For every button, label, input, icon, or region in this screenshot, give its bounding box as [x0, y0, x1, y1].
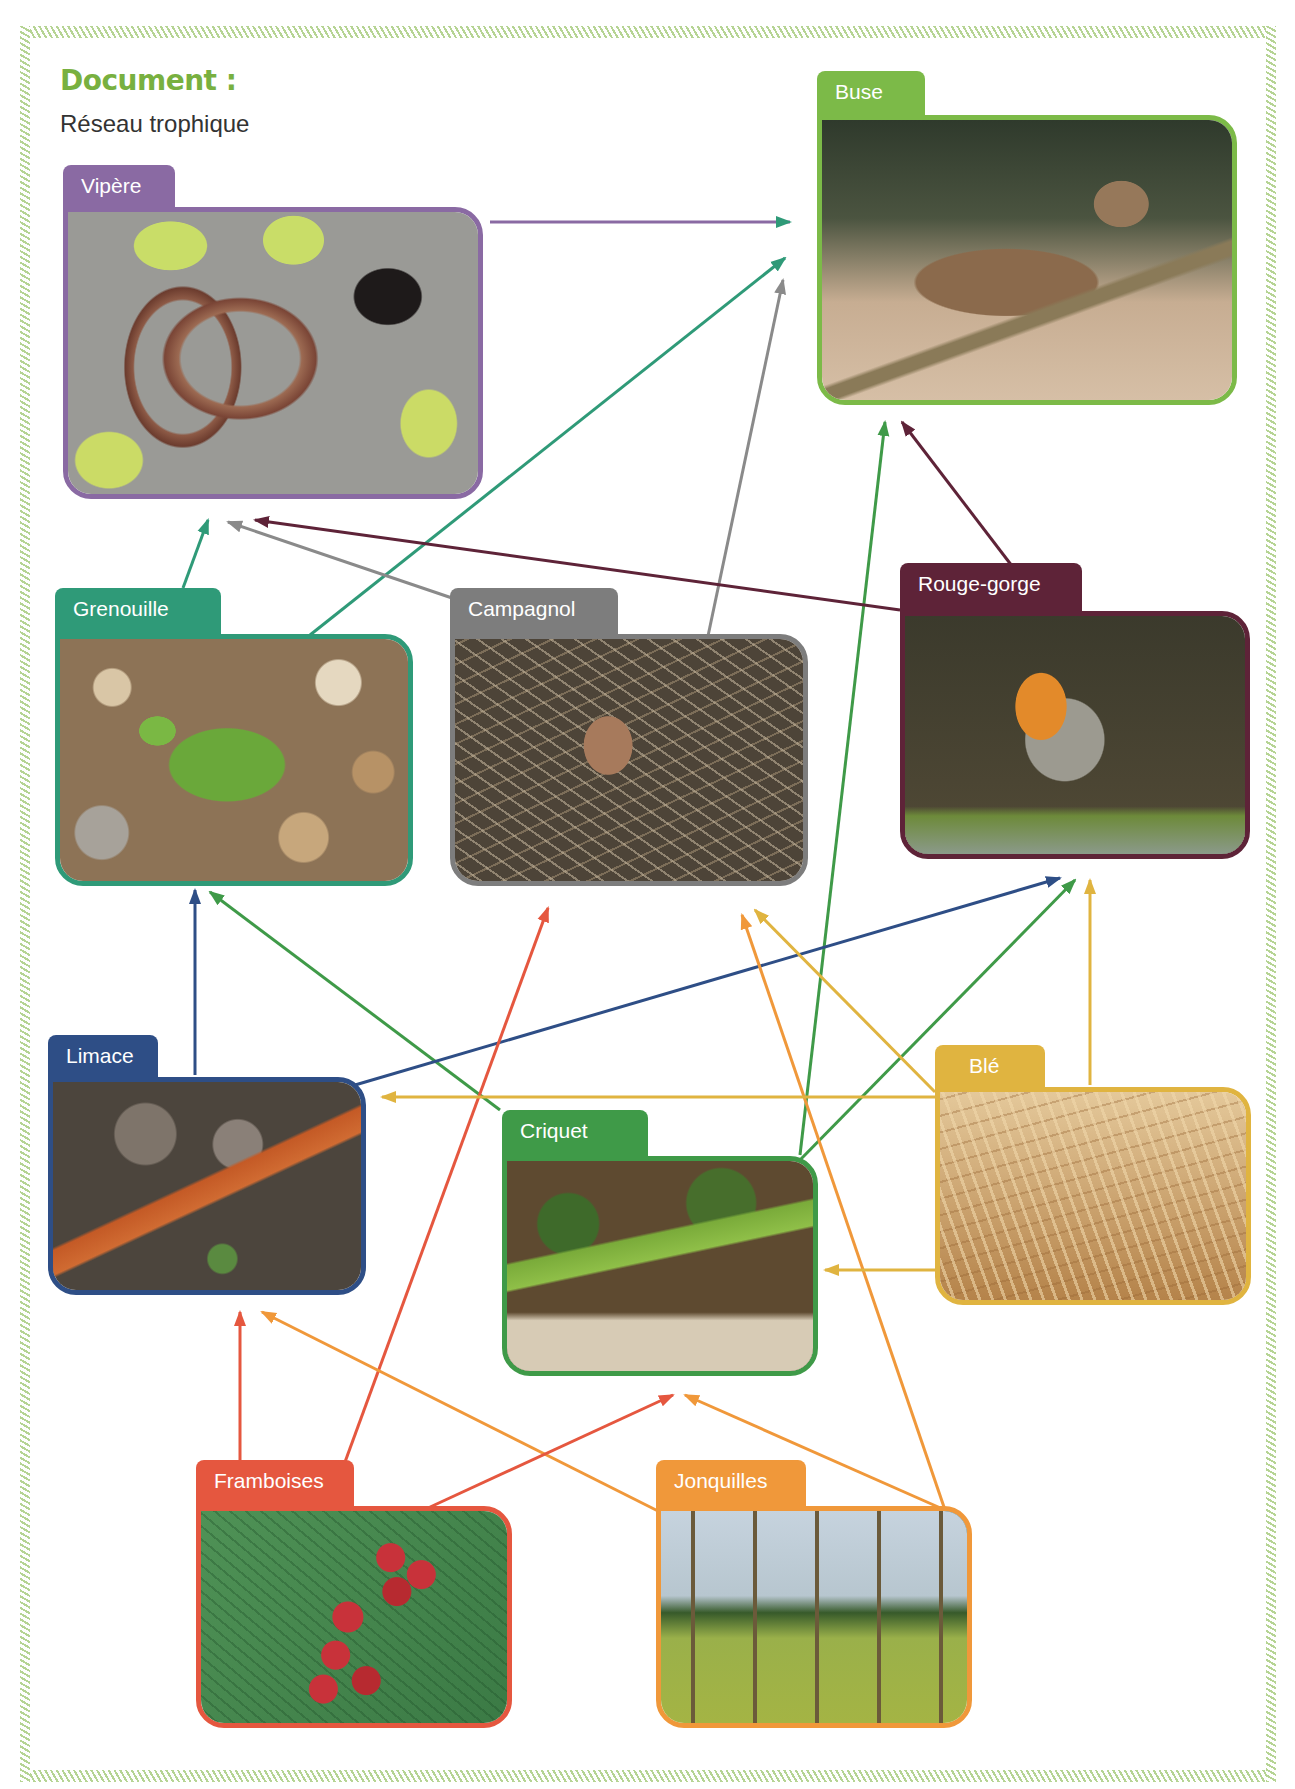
card-ble: Blé — [935, 1045, 1251, 1305]
tab-buse: Buse — [817, 71, 925, 119]
arrow-campagnol-vipere — [228, 522, 452, 598]
photo-grenouille — [55, 634, 413, 886]
frame-border-left — [20, 26, 30, 1782]
card-campagnol: Campagnol — [450, 588, 808, 886]
arrow-criquet-buse — [800, 422, 885, 1155]
card-framboises: Framboises — [196, 1460, 512, 1728]
vole-photo — [455, 639, 803, 881]
document-title: Document : — [60, 64, 236, 97]
arrow-campagnol-buse — [708, 280, 783, 636]
tab-ble: Blé — [935, 1045, 1045, 1093]
card-buse: Buse — [817, 71, 1237, 405]
tab-grenouille: Grenouille — [55, 588, 221, 636]
frame-border-top — [22, 26, 1274, 38]
document-subtitle: Réseau trophique — [60, 110, 249, 138]
arrow-ble-campagnol — [755, 910, 935, 1092]
robin-photo — [905, 616, 1245, 854]
wheat-photo — [940, 1092, 1246, 1300]
tab-criquet: Criquet — [502, 1110, 648, 1158]
frame-border-right — [1266, 26, 1276, 1782]
frame-border-bottom — [22, 1770, 1274, 1782]
tab-limace: Limace — [48, 1035, 158, 1083]
card-limace: Limace — [48, 1035, 366, 1295]
photo-ble — [935, 1087, 1251, 1305]
tab-rouge-gorge: Rouge-gorge — [900, 563, 1082, 611]
photo-framboises — [196, 1506, 512, 1728]
viper-photo — [68, 212, 478, 494]
slug-photo — [53, 1082, 361, 1290]
buzzard-photo — [822, 120, 1232, 400]
arrow-grenouille-vipere — [183, 520, 208, 588]
card-jonquilles: Jonquilles — [656, 1460, 972, 1728]
daffodil-photo — [661, 1511, 967, 1723]
photo-rouge-gorge — [900, 611, 1250, 859]
photo-vipere — [63, 207, 483, 499]
photo-campagnol — [450, 634, 808, 886]
tab-vipere: Vipère — [63, 165, 175, 213]
card-vipere: Vipère — [63, 165, 483, 499]
photo-limace — [48, 1077, 366, 1295]
card-grenouille: Grenouille — [55, 588, 413, 886]
tab-jonquilles: Jonquilles — [656, 1460, 806, 1508]
photo-jonquilles — [656, 1506, 972, 1728]
tab-framboises: Framboises — [196, 1460, 354, 1508]
card-rouge-gorge: Rouge-gorge — [900, 563, 1250, 859]
arrow-rougegorge-buse — [902, 422, 1012, 566]
grasshopper-photo — [507, 1161, 813, 1371]
frog-photo — [60, 639, 408, 881]
raspberry-photo — [201, 1511, 507, 1723]
photo-buse — [817, 115, 1237, 405]
tab-campagnol: Campagnol — [450, 588, 618, 636]
photo-criquet — [502, 1156, 818, 1376]
card-criquet: Criquet — [502, 1110, 818, 1376]
